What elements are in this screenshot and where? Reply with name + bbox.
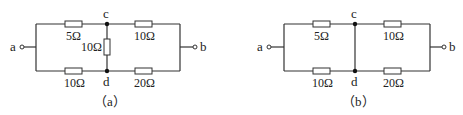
node-c-label: c <box>351 6 357 21</box>
terminal-b-label: b <box>449 39 456 54</box>
resistor-middle-value: 10Ω <box>81 40 102 54</box>
resistor-top-right-value: 10Ω <box>134 29 155 43</box>
node-c-icon <box>105 22 109 26</box>
resistor-top-left-value: 5Ω <box>66 29 81 43</box>
resistor-top-left-value: 5Ω <box>314 29 329 43</box>
node-d-label: d <box>103 74 110 89</box>
terminal-b-label: b <box>200 39 207 54</box>
resistor-10ohm-icon <box>384 21 401 27</box>
terminal-b-icon <box>442 45 446 49</box>
circuit-b: a b 5Ω 10Ω 10Ω 20Ω c d （b） <box>257 6 456 109</box>
terminal-a-label: a <box>257 39 263 54</box>
resistor-20ohm-icon <box>135 68 152 74</box>
resistor-bottom-left-value: 10Ω <box>64 76 85 90</box>
resistor-20ohm-icon <box>384 68 401 74</box>
node-c-label: c <box>103 6 109 21</box>
node-d-label: d <box>351 74 358 89</box>
resistor-10ohm-vertical-icon <box>104 39 110 55</box>
node-d-icon <box>105 69 109 73</box>
caption-b: （b） <box>342 94 375 109</box>
circuit-a: a b 5Ω 10Ω 10Ω 20Ω 10Ω c d （a） <box>10 6 207 109</box>
resistor-bottom-right-value: 20Ω <box>134 76 155 90</box>
terminal-b-icon <box>193 45 197 49</box>
resistor-bottom-right-value: 20Ω <box>383 76 404 90</box>
resistor-10ohm-icon <box>65 68 82 74</box>
resistor-5ohm-icon <box>65 21 82 27</box>
caption-a: （a） <box>94 94 126 109</box>
terminal-a-label: a <box>10 39 16 54</box>
resistor-5ohm-icon <box>313 21 330 27</box>
terminal-a-icon <box>267 45 271 49</box>
resistor-bottom-left-value: 10Ω <box>312 76 333 90</box>
resistor-top-right-value: 10Ω <box>383 29 404 43</box>
resistor-10ohm-icon <box>135 21 152 27</box>
terminal-a-icon <box>20 45 24 49</box>
node-d-icon <box>353 69 357 73</box>
circuit-diagrams: a b 5Ω 10Ω 10Ω 20Ω 10Ω c d （a） <box>0 0 463 115</box>
node-c-icon <box>353 22 357 26</box>
resistor-10ohm-icon <box>313 68 330 74</box>
